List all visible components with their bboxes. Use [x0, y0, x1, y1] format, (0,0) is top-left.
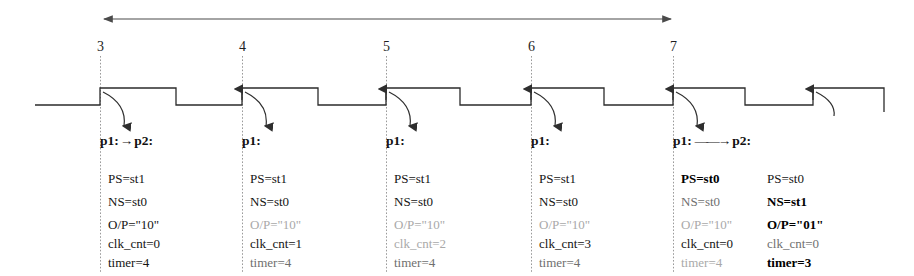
annotation-row: O/P="10" — [539, 218, 590, 231]
transition-arrow-icon: → — [119, 133, 135, 148]
clock-label-3: 3 — [97, 40, 104, 54]
annotation-head: p1:——→p2: — [673, 133, 849, 149]
process-label-left: p1: — [531, 133, 550, 148]
annotation-row: NS=st0 — [681, 195, 720, 208]
timing-diagram-figure: 3 4 5 6 7 p1:→p2:PS=st1NS=st0O/P="10"clk… — [0, 0, 914, 276]
transition-arrow-icon: ——→ — [692, 133, 733, 148]
annotation-group-grp-6: p1:PS=st1NS=st0O/P="10"clk_cnt=3timer=4 — [531, 133, 621, 269]
process-label-left: p1: — [242, 133, 261, 148]
annotation-column-p1: PS=st1NS=st0O/P="10"clk_cnt=0timer=4 — [108, 149, 190, 269]
annotation-column-p2: PS=st0NS=st1O/P="01"clk_cnt=0timer=3 — [767, 149, 849, 269]
annotation-row: O/P="01" — [767, 218, 824, 231]
annotation-row: O/P="10" — [108, 218, 159, 231]
annotation-row: timer=4 — [681, 256, 722, 269]
annotation-row: clk_cnt=0 — [108, 237, 160, 250]
annotation-row: timer=4 — [250, 256, 291, 269]
annotation-row: clk_cnt=0 — [681, 237, 733, 250]
annotation-row: clk_cnt=3 — [539, 237, 591, 250]
edge-to-annotation-arrows — [103, 92, 834, 126]
annotation-head: p1: — [386, 133, 476, 149]
annotation-row: timer=4 — [108, 256, 149, 269]
clock-label-7: 7 — [670, 40, 677, 54]
annotation-head: p1: — [531, 133, 621, 149]
annotation-row: timer=4 — [539, 256, 580, 269]
process-label-left: p1: — [100, 133, 119, 148]
process-label-right: p2: — [134, 133, 153, 148]
annotation-columns: PS=st0NS=st0O/P="10"clk_cnt=0timer=4PS=s… — [673, 149, 849, 269]
annotation-row: PS=st1 — [108, 172, 145, 185]
annotation-column-p1: PS=st1NS=st0O/P="10"clk_cnt=3timer=4 — [539, 149, 621, 269]
clock-waveform — [35, 88, 884, 112]
annotation-row: NS=st0 — [394, 195, 433, 208]
annotation-head: p1:→p2: — [100, 133, 190, 149]
annotation-group-grp-7: p1:——→p2:PS=st0NS=st0O/P="10"clk_cnt=0ti… — [673, 133, 849, 269]
annotation-row: O/P="10" — [394, 218, 445, 231]
annotation-row: O/P="10" — [681, 218, 732, 231]
clock-label-5: 5 — [383, 40, 390, 54]
process-label-left: p1: — [673, 133, 692, 148]
annotation-row: NS=st0 — [108, 195, 147, 208]
annotation-row: timer=4 — [394, 256, 435, 269]
process-label-left: p1: — [386, 133, 405, 148]
annotation-column-p1: PS=st1NS=st0O/P="10"clk_cnt=1timer=4 — [250, 149, 332, 269]
annotation-columns: PS=st1NS=st0O/P="10"clk_cnt=2timer=4 — [386, 149, 476, 269]
annotation-row: NS=st0 — [250, 195, 289, 208]
rising-edge-markers — [242, 89, 813, 100]
annotation-head: p1: — [242, 133, 332, 149]
annotation-row: clk_cnt=2 — [394, 237, 446, 250]
annotation-group-grp-4: p1:PS=st1NS=st0O/P="10"clk_cnt=1timer=4 — [242, 133, 332, 269]
annotation-row: O/P="10" — [250, 218, 301, 231]
process-label-right: p2: — [732, 133, 751, 148]
annotation-group-grp-3: p1:→p2:PS=st1NS=st0O/P="10"clk_cnt=0time… — [100, 133, 190, 269]
annotation-row: NS=st0 — [539, 195, 578, 208]
annotation-row: timer=3 — [767, 256, 811, 269]
annotation-row: PS=st0 — [681, 172, 719, 185]
clock-label-4: 4 — [239, 40, 246, 54]
clock-label-6: 6 — [528, 40, 535, 54]
annotation-row: NS=st1 — [767, 195, 807, 208]
annotation-row: PS=st1 — [250, 172, 287, 185]
annotation-columns: PS=st1NS=st0O/P="10"clk_cnt=0timer=4 — [100, 149, 190, 269]
annotation-row: PS=st1 — [539, 172, 576, 185]
annotation-row: PS=st0 — [767, 172, 804, 185]
annotation-row: PS=st1 — [394, 172, 431, 185]
annotation-column-p1: PS=st1NS=st0O/P="10"clk_cnt=2timer=4 — [394, 149, 476, 269]
annotation-columns: PS=st1NS=st0O/P="10"clk_cnt=1timer=4 — [242, 149, 332, 269]
annotation-row: clk_cnt=1 — [250, 237, 302, 250]
annotation-column-p1: PS=st0NS=st0O/P="10"clk_cnt=0timer=4 — [681, 149, 763, 269]
annotation-row: clk_cnt=0 — [767, 237, 819, 250]
annotation-columns: PS=st1NS=st0O/P="10"clk_cnt=3timer=4 — [531, 149, 621, 269]
annotation-group-grp-5: p1:PS=st1NS=st0O/P="10"clk_cnt=2timer=4 — [386, 133, 476, 269]
